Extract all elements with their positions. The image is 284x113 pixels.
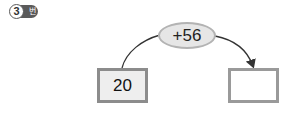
left-arc: [122, 35, 160, 68]
operation-label: +56: [173, 26, 202, 46]
operation-oval: +56: [158, 22, 216, 49]
start-value-box: 20: [97, 68, 148, 103]
start-value: 20: [113, 76, 132, 96]
answer-box[interactable]: [228, 68, 279, 103]
right-arc-arrow: [215, 36, 253, 66]
